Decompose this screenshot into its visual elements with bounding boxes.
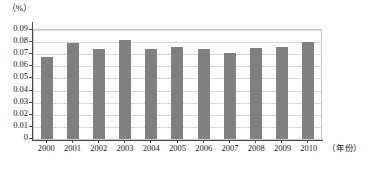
bar — [41, 57, 53, 139]
bar — [224, 53, 236, 139]
x-axis-tick-mark — [124, 140, 125, 143]
x-axis-tick-mark — [307, 140, 308, 143]
x-axis-tick-mark — [72, 140, 73, 143]
x-axis-tick-label: 2003 — [116, 143, 133, 153]
x-axis-tick-label: 2002 — [90, 143, 107, 153]
x-axis-tick-label: 2010 — [300, 143, 317, 153]
y-axis-tick-label: 0.09 — [13, 24, 28, 33]
x-axis-title: （年份） — [327, 143, 362, 153]
x-axis-tick-mark — [177, 140, 178, 143]
bar — [198, 49, 210, 139]
x-axis-tick-label: 2005 — [169, 143, 186, 153]
x-axis-tick-label: 2004 — [143, 143, 160, 153]
y-axis-tick-label: 0.07 — [13, 48, 28, 57]
x-axis-tick-mark — [46, 140, 47, 143]
bar — [302, 42, 314, 139]
x-axis-tick-label: 2007 — [221, 143, 238, 153]
plot-area — [33, 29, 322, 140]
bar — [171, 47, 183, 139]
y-axis-tick-label: 0.08 — [13, 36, 28, 45]
x-axis-tick-mark — [203, 140, 204, 143]
y-axis-tick-label: 0 — [24, 133, 28, 142]
bar-chart: （%） 00.010.020.030.040.050.060.070.080.0… — [0, 0, 365, 175]
bar — [67, 43, 79, 139]
bar — [93, 49, 105, 139]
x-axis-tick-label: 2006 — [195, 143, 212, 153]
y-axis-tick-label: 0.04 — [13, 85, 28, 94]
x-axis-tick-mark — [98, 140, 99, 143]
y-axis-tick-label: 0.03 — [13, 97, 28, 106]
y-axis-tick-labels: 00.010.020.030.040.050.060.070.080.09 — [0, 0, 32, 175]
x-axis-tick-labels: 2000200120022003200420052006200720082009… — [33, 143, 322, 157]
x-axis-tick-label: 2000 — [38, 143, 55, 153]
x-axis-tick-mark — [255, 140, 256, 143]
x-axis-tick-label: 2001 — [64, 143, 81, 153]
y-axis-tick-label: 0.05 — [13, 72, 28, 81]
x-axis-tick-label: 2008 — [248, 143, 265, 153]
x-axis-tick-label: 2009 — [274, 143, 291, 153]
x-axis-tick-mark — [281, 140, 282, 143]
y-axis-tick-label: 0.01 — [13, 121, 28, 130]
bar — [119, 40, 131, 139]
y-axis-tick-label: 0.06 — [13, 60, 28, 69]
bars-layer — [34, 30, 321, 139]
bar — [250, 48, 262, 139]
bar — [276, 47, 288, 139]
bar — [145, 49, 157, 139]
x-axis-tick-mark — [150, 140, 151, 143]
y-axis-tick-label: 0.02 — [13, 109, 28, 118]
x-axis-tick-mark — [229, 140, 230, 143]
